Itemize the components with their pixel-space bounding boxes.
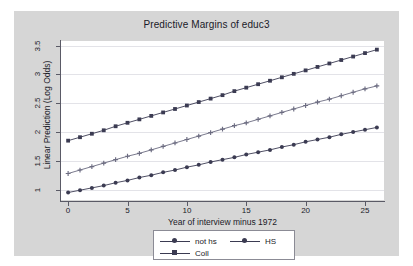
- data-point: [292, 143, 296, 147]
- legend-marker-not-hs: [160, 235, 190, 247]
- data-point: [316, 138, 320, 142]
- data-point: [351, 130, 355, 134]
- y-tick-mark: [56, 132, 60, 133]
- data-point: [90, 186, 94, 190]
- data-point: [327, 135, 331, 139]
- data-point: [221, 158, 225, 162]
- data-point: [339, 58, 343, 62]
- data-point: [137, 117, 141, 121]
- data-point: [363, 128, 367, 132]
- data-point: [102, 184, 106, 188]
- data-point: [374, 84, 379, 89]
- data-point: [327, 62, 331, 66]
- data-point: [149, 173, 153, 177]
- data-point: [351, 90, 356, 95]
- data-point: [279, 110, 284, 115]
- data-point: [280, 75, 284, 79]
- data-point: [126, 121, 130, 125]
- data-point: [78, 135, 82, 139]
- data-point: [268, 148, 272, 152]
- data-point: [375, 125, 379, 129]
- data-point: [66, 171, 71, 176]
- data-point: [197, 100, 201, 104]
- data-point: [292, 72, 296, 76]
- data-point: [256, 82, 260, 86]
- data-point: [149, 147, 154, 152]
- x-tick-label: 5: [116, 206, 140, 215]
- data-point: [232, 155, 236, 159]
- data-point: [244, 120, 249, 125]
- data-point: [256, 117, 261, 122]
- data-point: [244, 86, 248, 90]
- data-point: [315, 100, 320, 105]
- data-point: [66, 139, 70, 143]
- data-point: [221, 93, 225, 97]
- data-point: [304, 140, 308, 144]
- legend-marker-hs: [230, 235, 260, 247]
- legend-marker-coll: [160, 247, 190, 259]
- chart-figure: Predictive Margins of educ3 11.522.533.5…: [14, 11, 399, 256]
- legend-label-coll: Coll: [195, 249, 209, 258]
- x-tick-label: 10: [175, 206, 199, 215]
- data-point: [113, 157, 118, 162]
- legend-entry-coll[interactable]: Coll: [160, 247, 209, 259]
- data-point: [232, 89, 236, 93]
- x-tick-label: 25: [353, 206, 377, 215]
- data-point: [126, 178, 130, 182]
- legend-label-not-hs: not hs: [195, 237, 217, 246]
- legend-label-hs: HS: [265, 237, 276, 246]
- data-point: [114, 124, 118, 128]
- data-point: [89, 164, 94, 169]
- data-point: [137, 151, 142, 156]
- data-point: [161, 170, 165, 174]
- data-point: [208, 130, 213, 135]
- data-point: [363, 86, 368, 91]
- data-point: [137, 176, 141, 180]
- y-tick-mark: [56, 103, 60, 104]
- data-point: [161, 144, 166, 149]
- data-point: [339, 132, 343, 136]
- data-point: [363, 51, 367, 55]
- data-point: [327, 97, 332, 102]
- data-point: [184, 137, 189, 142]
- data-point: [244, 152, 248, 156]
- data-point: [149, 114, 153, 118]
- data-point: [78, 168, 83, 173]
- data-point: [173, 107, 177, 111]
- x-tick-label: 20: [294, 206, 318, 215]
- data-point: [114, 181, 118, 185]
- x-tick-label: 15: [234, 206, 258, 215]
- data-point: [173, 141, 178, 146]
- chart-title: Predictive Margins of educ3: [14, 19, 399, 30]
- data-point: [185, 165, 189, 169]
- data-point: [280, 145, 284, 149]
- data-point: [351, 55, 355, 59]
- data-point: [303, 103, 308, 108]
- data-point: [291, 107, 296, 112]
- legend-entry-not-hs[interactable]: not hs: [160, 235, 217, 247]
- data-point: [197, 163, 201, 167]
- data-point: [220, 127, 225, 132]
- x-tick-label: 0: [56, 206, 80, 215]
- data-point: [232, 123, 237, 128]
- series-layer: [61, 41, 384, 200]
- chart-legend: not hs HS Coll: [153, 230, 295, 260]
- y-tick-mark: [56, 74, 60, 75]
- data-point: [185, 104, 189, 108]
- data-point: [101, 161, 106, 166]
- data-point: [209, 97, 213, 101]
- data-point: [66, 191, 70, 195]
- data-point: [339, 93, 344, 98]
- data-point: [256, 150, 260, 154]
- y-tick-mark: [56, 161, 60, 162]
- data-point: [173, 168, 177, 172]
- data-point: [209, 160, 213, 164]
- data-point: [316, 65, 320, 69]
- legend-entry-hs[interactable]: HS: [230, 235, 276, 247]
- data-point: [90, 132, 94, 136]
- data-point: [125, 154, 130, 159]
- x-axis-title: Year of interview minus 1972: [61, 217, 384, 227]
- data-point: [304, 68, 308, 72]
- y-tick-mark: [56, 190, 60, 191]
- data-point: [196, 134, 201, 139]
